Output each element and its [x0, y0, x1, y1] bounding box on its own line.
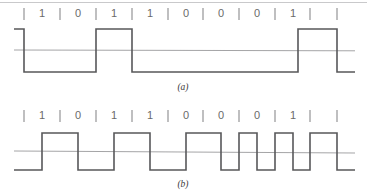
waveform-canvas: 1 0 1 1 0 0 0 1 (a) [0, 0, 367, 195]
bit-label-a-6: 0 [254, 7, 260, 19]
bit-label-a-1: 0 [75, 7, 81, 19]
bit-label-b-7: 1 [290, 109, 296, 121]
bit-label-a-2: 1 [111, 7, 117, 19]
reference-axis-b [14, 151, 355, 153]
bit-label-a-0: 1 [39, 7, 45, 19]
panel-b: 1 0 1 1 0 0 0 1 (b) [14, 109, 355, 190]
waveform-figure: 1 0 1 1 0 0 0 1 (a) [0, 0, 367, 195]
bit-label-b-6: 0 [254, 109, 260, 121]
reference-axis-a [14, 50, 355, 51]
caption-a: (a) [177, 82, 188, 93]
bit-label-b-0: 1 [39, 109, 45, 121]
bit-label-a-5: 0 [218, 7, 224, 19]
bit-label-a-4: 0 [183, 7, 189, 19]
bit-label-b-5: 0 [218, 109, 224, 121]
bit-label-b-3: 1 [147, 109, 153, 121]
caption-b: (b) [177, 179, 188, 190]
bit-label-b-1: 0 [75, 109, 81, 121]
panel-a: 1 0 1 1 0 0 0 1 (a) [14, 7, 355, 93]
bit-label-a-7: 1 [290, 7, 296, 19]
bit-label-a-3: 1 [147, 7, 153, 19]
bit-label-b-2: 1 [111, 109, 117, 121]
bit-label-b-4: 0 [183, 109, 189, 121]
